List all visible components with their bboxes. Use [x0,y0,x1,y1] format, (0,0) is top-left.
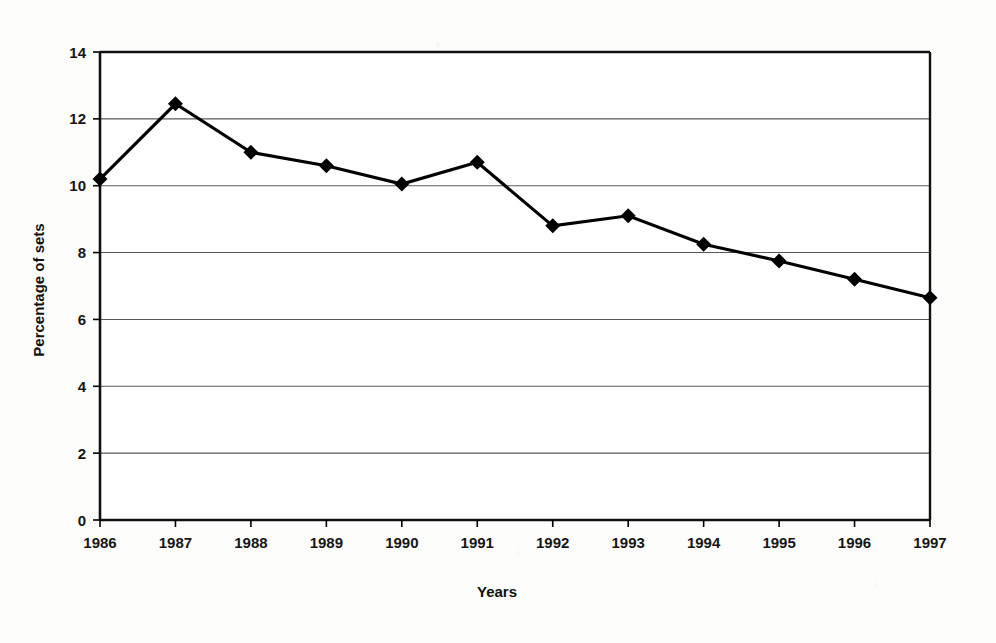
y-axis-ticks: 02468101214 [69,44,100,529]
y-tick-label: 8 [78,244,86,261]
y-tick-label: 6 [78,311,86,328]
x-tick-label: 1988 [234,534,267,551]
y-tick-label: 0 [78,512,86,529]
x-tick-label: 1993 [611,534,644,551]
plot-area-background [100,52,930,520]
x-tick-label: 1989 [310,534,343,551]
x-tick-label: 1992 [536,534,569,551]
y-axis-title: Percentage of sets [30,223,47,356]
x-tick-label: 1995 [762,534,795,551]
x-tick-label: 1990 [385,534,418,551]
x-tick-label: 1994 [687,534,721,551]
x-tick-label: 1991 [461,534,494,551]
y-tick-label: 12 [69,110,86,127]
x-tick-label: 1986 [83,534,116,551]
y-tick-label: 2 [78,445,86,462]
line-chart: 02468101214 1986198719881989199019911992… [0,0,996,643]
x-tick-label: 1996 [838,534,871,551]
x-axis-ticks: 1986198719881989199019911992199319941995… [83,520,946,551]
x-tick-label: 1997 [913,534,946,551]
chart-page: 02468101214 1986198719881989199019911992… [0,0,996,643]
x-axis-title: Years [477,583,517,600]
x-tick-label: 1987 [159,534,192,551]
y-tick-label: 4 [78,378,87,395]
y-tick-label: 14 [69,44,86,61]
y-tick-label: 10 [69,177,86,194]
